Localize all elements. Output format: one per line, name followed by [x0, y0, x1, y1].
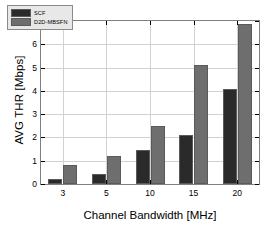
y-tick-mark: [41, 137, 45, 138]
legend-label: D2D-MBSFN: [34, 18, 68, 26]
x-tick-mark: [106, 21, 107, 25]
bar-d2d-mbsfn-15: [194, 65, 208, 184]
gridline-vertical: [63, 21, 64, 184]
y-tick-label: 2: [32, 132, 37, 142]
x-tick-mark: [194, 21, 195, 25]
bar-scf-20: [223, 89, 237, 184]
bar-d2d-mbsfn-20: [238, 24, 252, 184]
y-tick-mark: [41, 114, 45, 115]
y-tick-label: 3: [32, 109, 37, 119]
legend-item: SCF: [11, 9, 68, 17]
y-tick-mark: [41, 91, 45, 92]
legend-swatch-icon: [11, 18, 31, 26]
y-tick-label: 1: [32, 156, 37, 166]
x-tick-label: 5: [104, 188, 109, 198]
y-tick-mark: [255, 114, 259, 115]
bar-d2d-mbsfn-3: [63, 165, 77, 184]
y-tick-mark: [41, 44, 45, 45]
y-tick-mark: [255, 21, 259, 22]
y-tick-mark: [255, 91, 259, 92]
bar-scf-3: [48, 179, 62, 184]
x-axis-title: Channel Bandwidth [MHz]: [40, 209, 260, 221]
bar-scf-15: [179, 135, 193, 184]
y-tick-mark: [255, 161, 259, 162]
y-tick-label: 0: [32, 179, 37, 189]
y-tick-mark: [255, 68, 259, 69]
bar-d2d-mbsfn-5: [107, 156, 121, 184]
legend-item: D2D-MBSFN: [11, 18, 68, 26]
y-tick-mark: [255, 137, 259, 138]
bar-scf-10: [136, 150, 150, 184]
y-tick-mark: [41, 68, 45, 69]
plot-area: 0123456735101520: [40, 20, 260, 185]
x-tick-label: 10: [145, 188, 154, 198]
legend-swatch-icon: [11, 9, 31, 17]
y-tick-label: 4: [32, 86, 37, 96]
chart-legend: SCFD2D-MBSFN: [7, 5, 73, 30]
y-tick-mark: [41, 184, 45, 185]
y-tick-mark: [255, 44, 259, 45]
x-tick-label: 15: [189, 188, 198, 198]
y-tick-label: 6: [32, 39, 37, 49]
x-tick-mark: [150, 21, 151, 25]
y-tick-label: 5: [32, 63, 37, 73]
y-tick-mark: [41, 161, 45, 162]
x-tick-label: 3: [60, 188, 65, 198]
y-axis-title: AVG THR [Mbps]: [13, 15, 25, 185]
chart-figure: AVG THR [Mbps] 0123456735101520 Channel …: [0, 0, 271, 233]
legend-label: SCF: [34, 9, 46, 17]
x-tick-label: 20: [232, 188, 241, 198]
plot-inner: 0123456735101520: [41, 21, 259, 184]
y-tick-mark: [255, 184, 259, 185]
bar-scf-5: [92, 174, 106, 184]
bar-d2d-mbsfn-10: [151, 126, 165, 184]
